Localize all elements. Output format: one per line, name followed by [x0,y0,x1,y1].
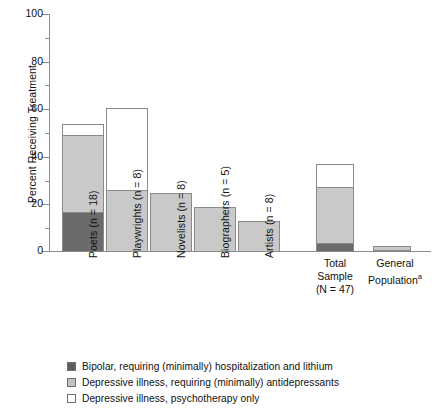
footnote-marker: a [418,272,422,281]
x-label-general-population: General Populationa [357,257,433,287]
chart-legend: Bipolar, requiring (minimally) hospitali… [67,359,339,407]
legend-swatch-bipolar-icon [67,362,76,371]
x-label-general-population-line2-text: Population [368,274,418,286]
x-label-artists: Artists (n = 8) [263,194,275,258]
y-tick-40 [42,157,50,158]
legend-item-antidepressants: Depressive illness, requiring (minimally… [67,375,339,390]
y-minor-tick-90 [45,38,50,39]
y-tick-0 [42,251,50,252]
x-label-general-population-line1: General [357,257,433,270]
legend-label-antidepressants: Depressive illness, requiring (minimally… [82,377,339,388]
legend-swatch-antidepressants-icon [67,378,76,387]
y-tick-60 [42,109,50,110]
x-label-novelists: Novelists (n = 8) [175,180,187,258]
y-tick-label-100: 100 [0,8,43,19]
legend-swatch-psychotherapy-icon [67,394,76,403]
legend-label-psychotherapy: Depressive illness, psychotherapy only [82,393,259,404]
x-label-playwrights: Playwrights (n = 8) [131,169,143,258]
y-minor-tick-30 [45,181,50,182]
x-label-general-population-line2: Populationa [357,270,433,287]
x-label-poets: Poets (n = 18) [87,190,99,258]
legend-label-bipolar: Bipolar, requiring (minimally) hospitali… [82,361,333,372]
y-tick-100 [42,14,50,15]
legend-item-psychotherapy: Depressive illness, psychotherapy only [67,391,339,406]
y-tick-label-40: 40 [0,151,43,162]
bar-segment-general-population-bipolar [373,250,411,252]
y-tick-label-0: 0 [0,245,43,256]
y-minor-tick-10 [45,228,50,229]
bar-segment-total-sample-bipolar [316,243,354,252]
y-tick-label-60: 60 [0,103,43,114]
bar-total-sample [316,161,354,251]
bar-general-population [373,244,411,251]
y-tick-80 [42,62,50,63]
y-minor-tick-50 [45,133,50,134]
bar-segment-total-sample-antidepressants [316,187,354,244]
bar-segment-total-sample-psychotherapy [316,164,354,188]
y-tick-label-80: 80 [0,56,43,67]
x-label-biographers: Biographers (n = 5) [219,166,231,258]
y-minor-tick-70 [45,85,50,86]
chart-figure: Percent Receiving Treatment 100 80 60 40… [0,0,435,414]
y-tick-label-20: 20 [0,198,43,209]
legend-item-bipolar: Bipolar, requiring (minimally) hospitali… [67,359,339,374]
y-tick-20 [42,204,50,205]
